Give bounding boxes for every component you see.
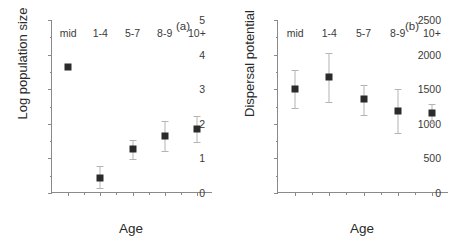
- x-axis-minor-tick: [346, 192, 347, 195]
- y-axis-minor-tick: [276, 107, 279, 108]
- error-bar-cap: [428, 123, 435, 124]
- x-axis-tick: [100, 192, 101, 196]
- x-axis-tick-label: 10+: [188, 27, 206, 39]
- error-bar-cap: [97, 188, 104, 189]
- y-axis-minor-tick: [50, 107, 53, 108]
- x-axis-tick-label: mid: [287, 27, 304, 39]
- x-axis-tick-label: 5-7: [356, 27, 371, 39]
- y-axis-tick: [48, 124, 52, 125]
- figure-container: Log population size Age (a) 012345mid1-4…: [0, 0, 473, 248]
- x-axis-tick: [432, 192, 433, 196]
- data-marker: [360, 96, 367, 103]
- panel-a-plot-area: 012345mid1-45-78-910+: [51, 20, 212, 193]
- panel-a-x-axis-label: Age: [51, 221, 211, 236]
- panel-b-plot-area: 05001000150020002500mid1-45-78-910+: [277, 20, 448, 193]
- y-axis-minor-tick: [50, 176, 53, 177]
- x-axis-tick: [197, 192, 198, 196]
- y-axis-tick: [48, 55, 52, 56]
- error-bar-cap: [326, 53, 333, 54]
- error-bar-cap: [360, 85, 367, 86]
- y-axis-minor-tick: [276, 141, 279, 142]
- x-axis-minor-tick: [149, 192, 150, 195]
- x-axis-minor-tick: [181, 192, 182, 195]
- x-axis-minor-tick: [84, 192, 85, 195]
- error-bar-cap: [193, 142, 200, 143]
- y-axis-tick: [274, 55, 278, 56]
- y-axis-minor-tick: [50, 37, 53, 38]
- x-axis-tick-label: 5-7: [125, 27, 140, 39]
- error-bar-cap: [360, 115, 367, 116]
- x-axis-tick: [165, 192, 166, 196]
- y-axis-tick: [274, 158, 278, 159]
- y-axis-tick-label: 0: [435, 187, 441, 199]
- error-bar-cap: [292, 70, 299, 71]
- y-axis-tick-label: 500: [423, 152, 441, 164]
- data-marker: [326, 74, 333, 81]
- x-axis-tick-label: mid: [60, 27, 77, 39]
- x-axis-minor-tick: [312, 192, 313, 195]
- x-axis-tick-label: 8-9: [390, 27, 405, 39]
- x-axis-minor-tick: [381, 192, 382, 195]
- x-axis-minor-tick: [415, 192, 416, 195]
- panel-b-y-axis-label: Dispersal potential: [242, 0, 257, 144]
- error-bar-cap: [292, 108, 299, 109]
- y-axis-tick-label: 4: [199, 49, 205, 61]
- x-axis-tick: [398, 192, 399, 196]
- y-axis-tick: [274, 193, 278, 194]
- error-bar-cap: [161, 121, 168, 122]
- y-axis-tick: [48, 20, 52, 21]
- x-axis-tick-label: 1-4: [322, 27, 337, 39]
- y-axis-tick: [274, 124, 278, 125]
- x-axis-tick: [133, 192, 134, 196]
- y-axis-tick-label: 1500: [418, 83, 441, 95]
- x-axis-tick: [295, 192, 296, 196]
- y-axis-tick-label: 5: [199, 14, 205, 26]
- y-axis-tick: [48, 158, 52, 159]
- y-axis-minor-tick: [276, 176, 279, 177]
- error-bar-cap: [161, 151, 168, 152]
- x-axis-minor-tick: [116, 192, 117, 195]
- panel-b-x-axis-label: Age: [277, 221, 447, 236]
- x-axis-tick-label: 10+: [423, 27, 441, 39]
- data-marker: [97, 174, 104, 181]
- error-bar-cap: [394, 133, 401, 134]
- data-marker: [394, 107, 401, 114]
- y-axis-minor-tick: [50, 72, 53, 73]
- x-axis-tick: [364, 192, 365, 196]
- error-bar-cap: [394, 89, 401, 90]
- error-bar-cap: [326, 102, 333, 103]
- y-axis-tick-label: 2000: [418, 49, 441, 61]
- y-axis-tick-label: 1: [199, 152, 205, 164]
- data-marker: [161, 133, 168, 140]
- error-bar-cap: [428, 104, 435, 105]
- y-axis-minor-tick: [50, 141, 53, 142]
- error-bar-cap: [129, 140, 136, 141]
- panel-a-y-axis-label: Log population size: [15, 0, 30, 144]
- data-marker: [428, 110, 435, 117]
- panel-b: Dispersal potential Age (b) 050010001500…: [233, 0, 469, 248]
- y-axis-minor-tick: [276, 72, 279, 73]
- panel-a: Log population size Age (a) 012345mid1-4…: [0, 0, 236, 248]
- data-marker: [193, 125, 200, 132]
- data-marker: [65, 64, 72, 71]
- y-axis-tick-label: 2500: [418, 14, 441, 26]
- data-marker: [129, 145, 136, 152]
- error-bar-cap: [97, 166, 104, 167]
- x-axis-tick: [329, 192, 330, 196]
- data-marker: [292, 86, 299, 93]
- error-bar-cap: [193, 116, 200, 117]
- error-bar-cap: [129, 159, 136, 160]
- x-axis-tick-label: 8-9: [157, 27, 172, 39]
- y-axis-tick-label: 0: [199, 187, 205, 199]
- y-axis-tick-label: 3: [199, 83, 205, 95]
- y-axis-tick: [274, 20, 278, 21]
- y-axis-tick: [48, 193, 52, 194]
- y-axis-tick: [48, 89, 52, 90]
- x-axis-tick-label: 1-4: [93, 27, 108, 39]
- x-axis-tick: [68, 192, 69, 196]
- y-axis-minor-tick: [276, 37, 279, 38]
- y-axis-tick: [274, 89, 278, 90]
